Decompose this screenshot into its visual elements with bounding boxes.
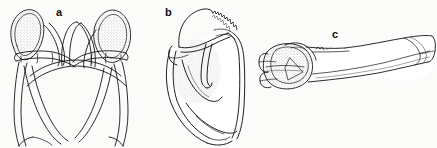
panel-label-b: b: [165, 7, 172, 18]
panel-label-c: c: [332, 29, 338, 40]
figure-artwork: [0, 0, 437, 148]
figure-plate: a b c: [0, 0, 437, 148]
panel-label-a: a: [56, 7, 62, 18]
